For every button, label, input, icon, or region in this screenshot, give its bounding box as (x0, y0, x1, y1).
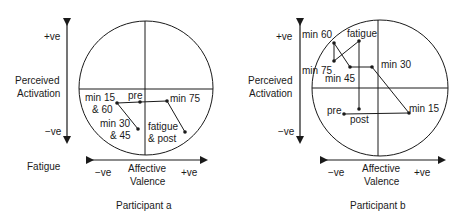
x-axis-left-label: −ve (95, 167, 112, 178)
y-axis-bottom-label: −ve (45, 126, 62, 137)
y-axis-label-line2: Activation (17, 88, 60, 99)
y-axis-top-label: +ve (44, 31, 61, 42)
point-label: pre (327, 105, 342, 116)
panel-participant-b: +ve Perceived Activation −ve −ve Affecti… (248, 20, 448, 211)
data-point (348, 65, 352, 69)
point-label: min 30 (100, 118, 130, 129)
point-label: fatigue (148, 121, 178, 132)
fatigue-label: Fatigue (27, 161, 61, 172)
y-axis-label-line1: Perceived (15, 75, 59, 86)
point-label: post (350, 114, 369, 125)
x-axis-left-label: −ve (328, 167, 345, 178)
point-label: & 60 (92, 104, 113, 115)
data-point (136, 127, 140, 131)
panel-title: Participant b (350, 200, 406, 211)
data-point (357, 39, 361, 43)
x-axis-label-line1: Affective (128, 163, 167, 174)
data-point (332, 59, 336, 63)
circumplex-figure: +ve Perceived Activation −ve Fatigue −ve… (0, 0, 467, 223)
circumplex-circle (79, 21, 213, 155)
x-axis-label-line2: Valence (130, 176, 166, 187)
circumplex-circle (312, 20, 448, 156)
x-axis-right-label: +ve (414, 167, 431, 178)
x-axis-label-line2: Valence (364, 176, 400, 187)
point-label: min 30 (381, 59, 411, 70)
data-point (165, 99, 169, 103)
point-label: min 60 (302, 29, 332, 40)
point-label: & post (148, 133, 177, 144)
y-axis-bottom-label: −ve (278, 126, 295, 137)
data-point (370, 65, 374, 69)
point-label: min 15 (85, 92, 115, 103)
point-label: min 15 (409, 103, 439, 114)
point-label: fatigue (347, 28, 377, 39)
panel-title: Participant a (116, 200, 172, 211)
point-label: min 75 (170, 93, 200, 104)
x-axis-right-label: +ve (181, 167, 198, 178)
y-axis-top-label: +ve (276, 31, 293, 42)
data-point (342, 112, 346, 116)
y-axis-label-line2: Activation (249, 88, 292, 99)
data-point (183, 130, 187, 134)
data-point (332, 41, 336, 45)
point-label: pre (128, 90, 143, 101)
point-label: & 45 (110, 130, 131, 141)
y-axis-label-line1: Perceived (248, 75, 292, 86)
x-axis-label-line1: Affective (362, 163, 401, 174)
data-point (115, 101, 119, 105)
point-label: min 45 (325, 73, 355, 84)
data-point (357, 107, 361, 111)
panel-participant-a: +ve Perceived Activation −ve Fatigue −ve… (15, 21, 213, 211)
